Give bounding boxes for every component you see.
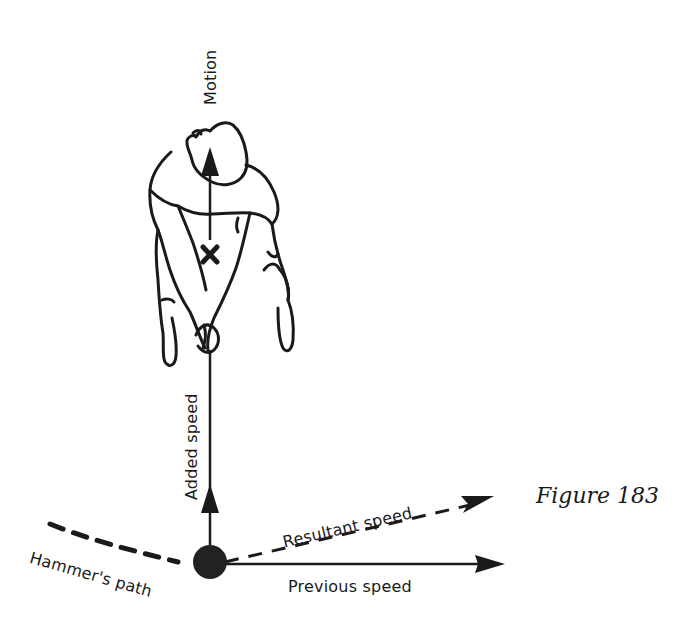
athlete-figure <box>150 123 293 366</box>
figure-caption: Figure 183 <box>536 483 659 508</box>
added-speed-label: Added speed <box>182 393 201 500</box>
diagram-canvas: Motion Added speed Resultant speed Previ… <box>0 0 691 617</box>
previous-speed-label: Previous speed <box>288 577 412 596</box>
centre-of-mass-x-marker <box>203 247 217 262</box>
hammer-path-curve <box>50 524 178 562</box>
previous-speed-arrow <box>225 555 505 573</box>
added-speed-arrow <box>201 350 219 545</box>
hammer-ball <box>193 545 227 579</box>
motion-label: Motion <box>201 50 220 105</box>
motion-arrow <box>201 147 219 240</box>
